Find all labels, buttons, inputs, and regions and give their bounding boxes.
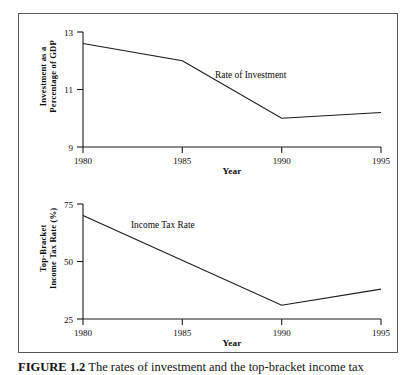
- x-axis-title-top: Year: [83, 166, 381, 176]
- figure-caption-text: The rates of investment and the top-brac…: [88, 360, 364, 374]
- y-ticklabel-bottom-2: 75: [64, 200, 74, 210]
- chart-panel-investment: Investment as a Percentage of GDP 13 11 …: [19, 14, 399, 184]
- y-ticklabel-bottom-1: 50: [64, 257, 74, 267]
- chart-panel-tax-rate: Top-Bracket Income Tax Rate (%) 75 50 25…: [19, 186, 399, 354]
- x-axis-title-bottom: Year: [83, 338, 381, 348]
- x-ticklabel-top-0: 1980: [74, 156, 93, 166]
- figure-caption-label: FIGURE 1.2: [18, 360, 85, 374]
- plot-area-investment: 13 11 9 1980 1985 1990 1995 Rate of Inve…: [19, 14, 399, 169]
- x-ticklabel-top-1: 1985: [173, 156, 192, 166]
- series-annotation-rate-of-investment: Rate of Investment: [215, 70, 287, 80]
- series-annotation-income-tax-rate: Income Tax Rate: [131, 220, 195, 230]
- x-ticklabel-bottom-2: 1990: [273, 328, 292, 338]
- x-ticklabel-bottom-0: 1980: [74, 328, 93, 338]
- data-line-income-tax-rate: [83, 216, 381, 306]
- x-ticklabel-bottom-3: 1995: [372, 328, 391, 338]
- y-ticklabel-top-0: 9: [69, 143, 74, 153]
- x-ticklabel-bottom-1: 1985: [173, 328, 192, 338]
- figure-frame: Investment as a Percentage of GDP 13 11 …: [18, 13, 398, 353]
- y-ticklabel-bottom-0: 25: [64, 315, 74, 325]
- x-ticklabel-top-3: 1995: [372, 156, 391, 166]
- y-ticklabel-top-2: 13: [64, 28, 74, 38]
- data-line-rate-of-investment: [83, 44, 381, 119]
- figure-caption: FIGURE 1.2 The rates of investment and t…: [18, 360, 408, 375]
- y-ticklabel-top-1: 11: [64, 85, 73, 95]
- plot-area-tax-rate: 75 50 25 1980 1985 1990 1995 Income Tax …: [19, 186, 399, 341]
- x-ticklabel-top-2: 1990: [273, 156, 292, 166]
